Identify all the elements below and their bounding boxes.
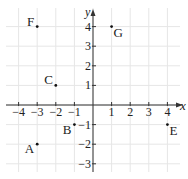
point-dot-icon <box>36 143 39 146</box>
x-tick-label: −4 <box>12 105 25 119</box>
y-tick-label: 2 <box>85 59 91 73</box>
x-tick-label: −3 <box>31 105 44 119</box>
point-dot-icon <box>54 84 57 87</box>
points: ABCDEFG <box>25 14 178 179</box>
point-a: A <box>25 141 39 156</box>
y-tick-label: −2 <box>78 137 91 151</box>
y-tick-label: −3 <box>78 157 91 171</box>
y-tick-label: 4 <box>85 20 91 34</box>
y-tick-label: 3 <box>85 39 91 53</box>
point-b: B <box>63 122 76 137</box>
point-dot-icon <box>110 25 113 28</box>
x-tick-label: −2 <box>49 105 62 119</box>
point-label: G <box>114 25 123 40</box>
x-tick-label: 4 <box>164 105 170 119</box>
point-label: B <box>63 122 72 137</box>
x-tick-label: 3 <box>146 105 152 119</box>
x-tick-label: 2 <box>127 105 133 119</box>
point-label: E <box>169 123 177 138</box>
y-axis-arrow-icon <box>91 9 96 16</box>
point-dot-icon <box>73 123 76 126</box>
point-label: A <box>25 141 35 156</box>
point-label: C <box>44 72 53 87</box>
y-tick-label: −1 <box>78 118 91 132</box>
point-c: C <box>44 72 57 87</box>
tick-labels: xy−4−3−2−11234−3−2−11234 <box>12 5 186 171</box>
x-tick-label: 1 <box>109 105 115 119</box>
point-label: F <box>27 14 34 29</box>
point-g: G <box>110 25 123 40</box>
y-tick-label: 1 <box>85 78 91 92</box>
x-axis-label: x <box>179 98 186 113</box>
point-dot-icon <box>36 25 39 28</box>
coordinate-plane: xy−4−3−2−11234−3−2−11234 ABCDEFG <box>0 0 188 179</box>
point-dot-icon <box>166 123 169 126</box>
y-axis-label: y <box>84 5 91 19</box>
